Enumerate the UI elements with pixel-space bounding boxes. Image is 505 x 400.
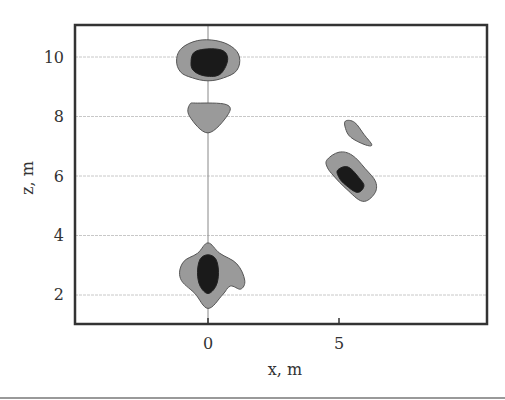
y-axis-label: z, m	[18, 161, 37, 195]
y-tick-label-8: 8	[54, 107, 64, 126]
contour-chart: 10 8 6 4 2 0 5 x, m z, m	[0, 0, 505, 400]
contour-right-large-blob	[326, 152, 377, 201]
contour-top-blob	[177, 40, 240, 81]
shield-blob-outer-level	[188, 103, 230, 133]
top-blob-inner-level	[191, 49, 228, 77]
contour-right-small-blob	[345, 120, 372, 146]
y-tick-label-6: 6	[54, 167, 64, 186]
right-small-blob-outer-level	[345, 120, 372, 146]
contour-shield-blob	[188, 103, 230, 133]
y-tick-label-4: 4	[54, 226, 64, 245]
gridlines	[75, 57, 487, 295]
contour-regions	[177, 40, 377, 309]
x-tick-label-0: 0	[203, 334, 213, 353]
x-tick-labels: 0 5	[203, 334, 344, 353]
contour-bottom-blob	[180, 243, 245, 309]
bottom-blob-inner-level	[198, 255, 219, 294]
x-tick-label-5: 5	[334, 334, 344, 353]
y-tick-label-2: 2	[54, 285, 64, 304]
plot-frame	[75, 25, 487, 324]
x-axis-label: x, m	[268, 360, 302, 379]
y-tick-label-10: 10	[44, 48, 64, 67]
y-tick-labels: 10 8 6 4 2	[44, 48, 64, 304]
